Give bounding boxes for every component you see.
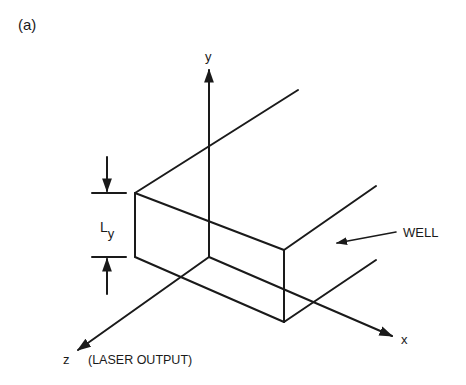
panel-label: (a) [18, 16, 36, 33]
bottom-front-edge [135, 257, 284, 322]
dimension-label: Ly [100, 219, 115, 241]
top-back-edge [135, 90, 298, 193]
z-axis [78, 257, 209, 350]
dimension-label-subscript: y [108, 226, 115, 241]
x-axis-label: x [401, 332, 408, 347]
z-axis-label: z [63, 352, 70, 367]
laser-output-label: (LASER OUTPUT) [88, 353, 192, 367]
dimension-label-main: L [100, 219, 108, 235]
y-axis-label: y [205, 49, 212, 64]
well-label: WELL [403, 225, 438, 240]
bottom-right-edge [284, 260, 376, 322]
top-right-edge [284, 186, 376, 250]
well-diagram: (a) y x z (LASER OUTPUT) Ly WELL [0, 0, 466, 385]
well-callout-arrow [337, 232, 396, 243]
